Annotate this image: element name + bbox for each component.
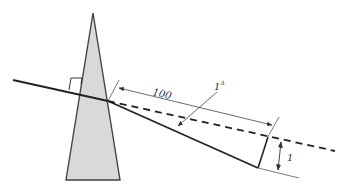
prism-diopter-label: 1Δ [214, 79, 225, 92]
extension-line-left [108, 80, 119, 101]
right-angle-marker [69, 78, 82, 90]
deviated-ray-end-segment [258, 137, 268, 168]
displacement-label: 1 [287, 152, 293, 163]
deviated-ray [108, 101, 258, 168]
undeviated-dashed-ray [108, 101, 335, 151]
prism-diopter-leader [178, 92, 217, 126]
prism [66, 13, 120, 180]
prism-diopter-diagram: 100 1Δ 1 [0, 0, 344, 192]
distance-label: 100 [152, 86, 174, 101]
displacement-dimension-line [278, 142, 281, 170]
